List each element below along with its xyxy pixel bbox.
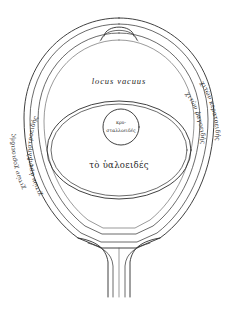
label-vitreous-body: τὸ ὑαλοειδές xyxy=(89,160,149,170)
third-tunic-contour xyxy=(38,33,200,234)
label-tunic-left-outer-text: χιτὼν χοριοειδής xyxy=(9,133,27,191)
vitreous-boundary-oval xyxy=(47,101,191,199)
eye-cross-section-drawing: locus vacuus τὸ ὑαλοειδές κρυ- σταλλοειδ… xyxy=(0,0,238,311)
crystalline-lens-circle xyxy=(103,109,139,145)
label-tunic-right-inner-text: χιτὼν ῥαγοειδής xyxy=(184,90,207,145)
label-lens-line-2: σταλλοειδές xyxy=(106,128,136,133)
label-tunic-left-inner-text: χιτὼν ἀμφιβληστροειδής xyxy=(25,114,44,197)
eye-diagram-figure: locus vacuus τὸ ὑαλοειδές κρυ- σταλλοειδ… xyxy=(0,0,238,311)
optic-nerve-stalk xyxy=(78,238,160,297)
label-tunic-left-outer: χιτὼν χοριοειδής xyxy=(9,133,27,191)
fourth-tunic-contour xyxy=(44,40,194,228)
outer-sclera-contour xyxy=(24,18,214,248)
label-tunic-right-inner: χιτὼν ῥαγοειδής xyxy=(184,90,207,145)
label-lens-line-1: κρυ- xyxy=(116,120,126,125)
cornea-bulge xyxy=(100,27,138,41)
label-tunic-left-inner: χιτὼν ἀμφιβληστροειδής xyxy=(25,114,44,197)
label-locus-vacuus: locus vacuus xyxy=(92,76,146,86)
second-tunic-contour xyxy=(30,24,208,242)
